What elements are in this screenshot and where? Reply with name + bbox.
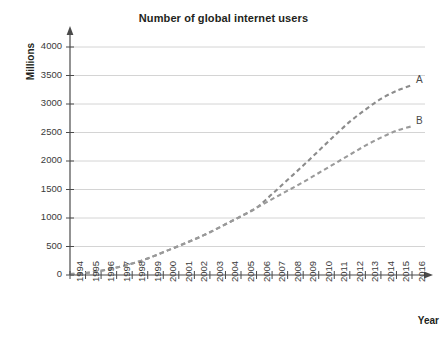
x-tick-label: 2006 <box>261 261 272 282</box>
y-tick-label: 2000 <box>20 154 62 165</box>
x-tick-label: 2009 <box>307 261 318 282</box>
chart-container: Number of global internet users Millions… <box>0 0 447 341</box>
curve-b <box>70 126 412 274</box>
y-tick-label: 1000 <box>20 211 62 222</box>
x-tick-label: 1994 <box>74 261 85 282</box>
y-tick-label: 3500 <box>20 69 62 80</box>
x-tick-label: 2013 <box>369 261 380 282</box>
curve-label-b: B <box>416 115 423 126</box>
x-tick-label: 1996 <box>105 261 116 282</box>
x-tick-label: 2005 <box>245 261 256 282</box>
y-tick-label: 3000 <box>20 97 62 108</box>
x-tick-label: 2004 <box>229 261 240 282</box>
x-tick-label: 2003 <box>214 261 225 282</box>
x-tick-label: 1998 <box>136 261 147 282</box>
curve-label-a: A <box>416 74 423 85</box>
x-tick-label: 2002 <box>198 261 209 282</box>
y-tick-label: 4000 <box>20 40 62 51</box>
curve-a <box>70 85 412 274</box>
data-curves-group <box>70 85 412 274</box>
y-tick-label: 500 <box>20 240 62 251</box>
x-tick-label: 2012 <box>354 261 365 282</box>
x-tick-label: 2008 <box>292 261 303 282</box>
chart-plot-area <box>0 0 447 341</box>
x-tick-label: 2007 <box>276 261 287 282</box>
x-tick-label: 1999 <box>152 261 163 282</box>
x-tick-label: 2000 <box>167 261 178 282</box>
x-tick-label: 2014 <box>385 261 396 282</box>
x-tick-label: 2011 <box>338 262 349 282</box>
gridlines-group <box>70 47 425 247</box>
x-tick-label: 1995 <box>90 261 101 282</box>
y-tick-label: 2500 <box>20 126 62 137</box>
y-tick-label: 1500 <box>20 183 62 194</box>
x-tick-label: 1997 <box>121 261 132 282</box>
y-tick-label: 0 <box>20 268 62 279</box>
y-axis-arrowhead <box>67 26 74 35</box>
x-tick-label: 2001 <box>183 261 194 282</box>
x-tick-label: 2016 <box>416 261 427 282</box>
x-tick-label: 2015 <box>400 261 411 282</box>
x-tick-label: 2010 <box>323 261 334 282</box>
